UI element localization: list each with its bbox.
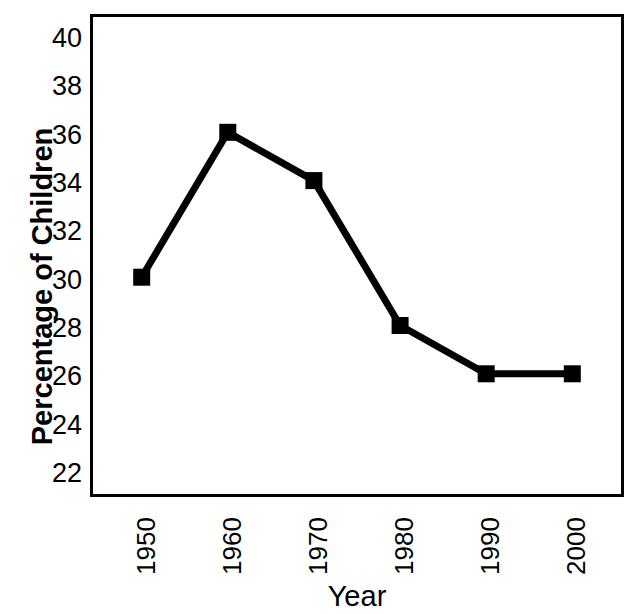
- y-axis-title: Percentage of Children: [26, 77, 59, 497]
- data-point-marker: [305, 172, 322, 189]
- x-axis-tick-label: 1960: [213, 497, 243, 577]
- x-axis-title: Year: [90, 580, 624, 613]
- x-axis-tick-label: 1970: [299, 497, 329, 577]
- data-point-marker: [564, 365, 581, 382]
- data-point-marker: [219, 124, 236, 141]
- x-axis-tick-label: 1990: [471, 497, 501, 577]
- x-axis-tick-label: 1950: [127, 497, 157, 577]
- data-point-marker: [133, 269, 150, 286]
- y-axis-tick-label: 40: [6, 25, 90, 52]
- data-point-marker: [478, 365, 495, 382]
- data-point-marker: [392, 317, 409, 334]
- x-axis-tick-label: 2000: [557, 497, 587, 577]
- x-axis-tick-label: 1980: [385, 497, 415, 577]
- line-chart: 22242628303234363840 Percentage of Child…: [0, 0, 635, 614]
- plot-area: [90, 14, 624, 497]
- series-line: [142, 132, 573, 373]
- x-axis-tick-labels: 195019601970198019902000: [0, 497, 635, 587]
